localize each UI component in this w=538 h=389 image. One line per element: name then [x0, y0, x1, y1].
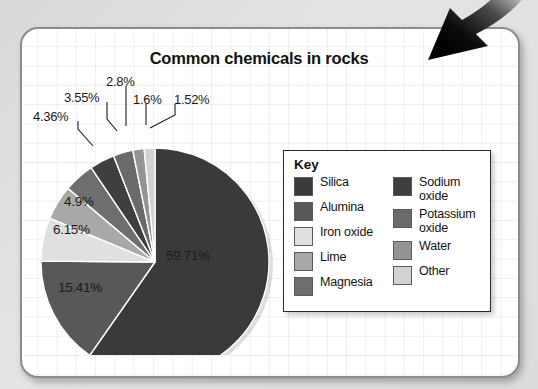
legend-swatch-icon — [294, 252, 313, 271]
slice-value-label-water: 1.6% — [133, 92, 161, 107]
legend-item-label: Water — [419, 240, 451, 254]
legend-swatch-icon — [294, 202, 313, 221]
legend-item-sodium-oxide[interactable]: Sodium oxide — [393, 176, 482, 203]
leader-line-sodium-oxide — [107, 102, 117, 131]
legend-item-potassium-oxide[interactable]: Potassium oxide — [393, 208, 482, 235]
legend-item-label: Sodium oxide — [419, 176, 482, 203]
legend-item-label: Silica — [320, 176, 349, 190]
legend-swatch-icon — [294, 227, 313, 246]
legend-item-label: Magnesia — [320, 276, 373, 290]
legend-item-label: Potassium oxide — [419, 208, 482, 235]
leader-line-other — [150, 104, 175, 128]
legend-column-left: SilicaAluminaIron oxideLimeMagnesia — [294, 176, 383, 296]
legend-title: Key — [294, 157, 482, 172]
legend-swatch-icon — [393, 241, 412, 260]
legend-item-label: Alumina — [320, 201, 364, 215]
legend-item-label: Lime — [320, 251, 346, 265]
slice-value-label-magnesia: 4.36% — [33, 109, 68, 124]
chart-legend: Key SilicaAluminaIron oxideLimeMagnesia … — [283, 150, 491, 312]
legend-item-iron-oxide[interactable]: Iron oxide — [294, 226, 383, 246]
legend-item-label: Iron oxide — [320, 226, 373, 240]
legend-column-right: Sodium oxidePotassium oxideWaterOther — [393, 176, 482, 296]
legend-item-silica[interactable]: Silica — [294, 176, 383, 196]
legend-item-other[interactable]: Other — [393, 265, 482, 285]
leader-line-magnesia — [78, 121, 93, 146]
legend-item-magnesia[interactable]: Magnesia — [294, 276, 383, 296]
legend-swatch-icon — [294, 177, 313, 196]
legend-swatch-icon — [393, 177, 412, 196]
legend-swatch-icon — [393, 209, 412, 228]
slice-value-label-other: 1.52% — [174, 92, 209, 107]
legend-swatch-icon — [393, 266, 412, 285]
chart-card: Common chemicals in rocks 59.71% 15.41% … — [20, 27, 520, 378]
slice-value-label-sodium-oxide: 3.55% — [64, 90, 99, 105]
legend-item-label: Other — [419, 265, 449, 279]
legend-item-lime[interactable]: Lime — [294, 251, 383, 271]
legend-swatch-icon — [294, 277, 313, 296]
legend-item-alumina[interactable]: Alumina — [294, 201, 383, 221]
slice-value-label-potassium-oxide: 2.8% — [106, 74, 134, 89]
legend-item-water[interactable]: Water — [393, 240, 482, 260]
